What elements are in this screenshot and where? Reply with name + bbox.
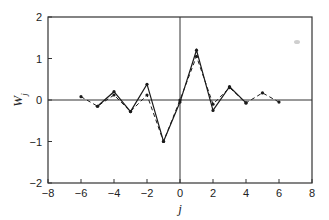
x-axis-label: j <box>176 201 182 216</box>
y-tick-label: 0 <box>36 94 42 106</box>
data-point-dashed <box>112 93 115 96</box>
data-point-dashed <box>277 100 280 103</box>
data-point-dashed <box>195 55 198 58</box>
x-tick-label: −6 <box>75 187 88 199</box>
x-tick-label: 2 <box>210 187 216 199</box>
data-point-dashed <box>244 101 247 104</box>
chart: −8−6−4−202468−2−1012 jWj <box>0 0 329 220</box>
data-point-dashed <box>162 140 165 143</box>
data-point-solid <box>195 49 198 52</box>
y-tick-label: 2 <box>36 11 42 23</box>
x-tick-label: 6 <box>276 187 282 199</box>
scan-smudge <box>294 40 300 44</box>
data-point-dashed <box>96 105 99 108</box>
y-tick-label: −2 <box>29 177 42 189</box>
x-tick-label: 8 <box>309 187 315 199</box>
data-point-dashed <box>129 110 132 113</box>
x-tick-label: −2 <box>141 187 154 199</box>
data-point-dashed <box>261 91 264 94</box>
x-tick-label: 4 <box>243 187 249 199</box>
data-point-solid <box>112 90 115 93</box>
data-point-dashed <box>145 93 148 96</box>
x-tick-label: −8 <box>42 187 55 199</box>
y-axis-label: Wj <box>10 93 29 107</box>
x-tick-label: −4 <box>108 187 121 199</box>
y-tick-label: 1 <box>36 53 42 65</box>
data-point-solid <box>145 83 148 86</box>
axis-labels: jWj <box>10 93 182 216</box>
data-point-dashed <box>211 103 214 106</box>
data-point-dashed <box>178 98 181 101</box>
axis-ticks: −8−6−4−202468−2−1012 <box>29 11 315 199</box>
data-point-solid <box>211 109 214 112</box>
data-point-dashed <box>228 86 231 89</box>
y-tick-label: −1 <box>29 136 42 148</box>
x-tick-label: 0 <box>177 187 183 199</box>
data-point-dashed <box>79 95 82 98</box>
series-line-solid <box>98 50 247 141</box>
